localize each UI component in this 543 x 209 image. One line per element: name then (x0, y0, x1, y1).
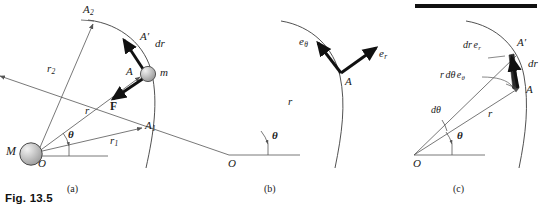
panel-label-a: (a) (67, 183, 78, 194)
radius-r2-line (38, 24, 93, 152)
label-vector-dr-c: dr (528, 58, 538, 69)
label-component-dr-er-c: drer (463, 40, 481, 52)
panel-label-b: (b) (264, 183, 276, 194)
panel-label-c: (c) (453, 183, 464, 194)
vector-F-a (113, 78, 144, 99)
label-e-theta-subscript: θ (304, 40, 308, 49)
radius-r-line-c (414, 88, 519, 155)
label-point-A2: A2 (83, 4, 94, 17)
label-component-rdtheta-etheta-c: rdθeθ (440, 70, 465, 82)
panel-b-art (0, 21, 376, 168)
label-angle-dtheta-c: dθ (431, 105, 441, 115)
label-angle-theta-a: θ (68, 129, 74, 140)
label-radius-r2: r2 (47, 63, 55, 76)
label-origin-O-b: O (228, 158, 236, 169)
label-radius-r-c: r (488, 108, 492, 119)
label-point-A-c: A (526, 84, 533, 95)
label-origin-O-c: O (413, 158, 421, 169)
label-vector-F-a: F (110, 101, 117, 113)
radius-r-plus-dr-line-c (414, 56, 516, 155)
angle-arc-theta-c (446, 132, 452, 144)
angle-arc-theta-b (261, 131, 268, 144)
label-radius-r1: r1 (110, 135, 118, 148)
label-vector-dr-a-r: r (161, 37, 165, 49)
label-dtheta-theta: θ (436, 104, 441, 115)
label-angle-theta-b: θ (272, 130, 278, 141)
label-vector-dr-c-r: r (534, 57, 538, 69)
label-unit-vector-e-r-b: er (379, 48, 387, 61)
label-point-A1-base: A (145, 119, 152, 131)
panel-a-art (20, 20, 156, 168)
leader-line-drer-c (488, 56, 505, 58)
label-e-r-subscript: r (384, 52, 387, 61)
label-radius-r-a: r (85, 105, 89, 116)
label-radius-r1-subscript: 1 (114, 139, 118, 148)
figure-vector-art (0, 0, 543, 209)
label-point-A-a: A (126, 66, 133, 77)
label-vector-dr-a: dr (155, 38, 165, 49)
label-dr-er-subscript: r (478, 44, 481, 51)
label-radius-r2-subscript: 2 (51, 67, 55, 76)
label-mass-M: M (6, 145, 16, 157)
label-mass-m: m (160, 67, 168, 78)
label-dr-er-r: r (468, 39, 472, 50)
label-radius-r-b: r (288, 96, 292, 107)
label-point-A-b: A (345, 76, 352, 87)
figure-13-5: M O m A A′ A2 A1 r2 r r1 θ dr F O A r θ … (0, 0, 543, 209)
label-point-A2-base: A (83, 3, 90, 15)
label-point-A-prime-a: A′ (140, 31, 149, 42)
unit-vector-e-r-b (341, 48, 376, 73)
unit-vector-e-theta-b (318, 43, 341, 73)
label-rdtheta-r: r (440, 69, 444, 80)
label-rdtheta-subscript: θ (461, 74, 465, 81)
figure-caption: Fig. 13.5 (5, 192, 53, 204)
label-point-A1-subscript: 1 (152, 124, 156, 133)
label-rdtheta-theta: θ (450, 69, 455, 80)
label-angle-theta-c: θ (457, 130, 463, 141)
label-point-A2-subscript: 2 (90, 8, 94, 17)
mass-m-sphere (140, 66, 155, 81)
radius-r1-line (38, 128, 142, 152)
label-origin-O-a: O (38, 158, 46, 169)
label-point-A1: A1 (145, 120, 156, 133)
label-point-A-prime-c: A′ (517, 37, 526, 48)
label-unit-vector-e-theta-b: eθ (299, 36, 308, 49)
